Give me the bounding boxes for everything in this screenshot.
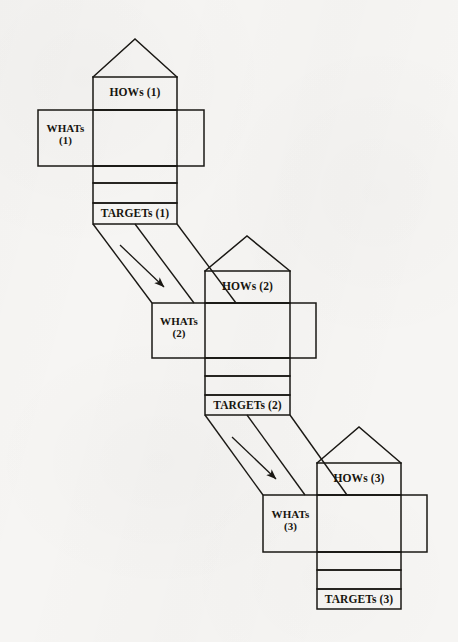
house-1-hows-label: HOWs (1) (93, 86, 177, 98)
connector-2-mid-line (247, 415, 305, 495)
connector-2-arrow-icon (232, 437, 276, 479)
house-3-hows-label: HOWs (3) (317, 472, 401, 484)
house-3-roof-icon (317, 427, 401, 463)
house-2-roof-icon (205, 236, 290, 271)
house-2-hows-label: HOWs (2) (205, 280, 290, 292)
house-1-row-b (93, 183, 177, 203)
house-3-targets-label: TARGETs (3) (317, 593, 401, 605)
house-2-matrix-box (205, 303, 290, 358)
house-2-row-a (205, 358, 290, 376)
house-1-targets-label: TARGETs (1) (93, 207, 177, 219)
house-1-whats-label: WHATs (1) (38, 123, 93, 147)
house-2-targets-label: TARGETs (2) (205, 399, 290, 411)
house-3-matrix-box (317, 495, 401, 552)
house-1-row-a (93, 166, 177, 183)
house-3-whats-label: WHATs (3) (263, 509, 318, 533)
connector-2-left-line (205, 415, 263, 495)
house-1-roof-icon (93, 39, 177, 77)
house-3-row-a (317, 552, 401, 570)
house-2-row-b (205, 376, 290, 395)
connector-1-arrow-icon (120, 245, 164, 287)
house-1-matrix-box (93, 110, 177, 166)
house-2-whats-label: WHATs (2) (152, 316, 206, 340)
house-3-row-b (317, 570, 401, 589)
qfd-cascade-diagram (0, 0, 458, 642)
figure-canvas: HOWs (1) WHATs (1) TARGETs (1) HOWs (2) … (0, 0, 458, 642)
